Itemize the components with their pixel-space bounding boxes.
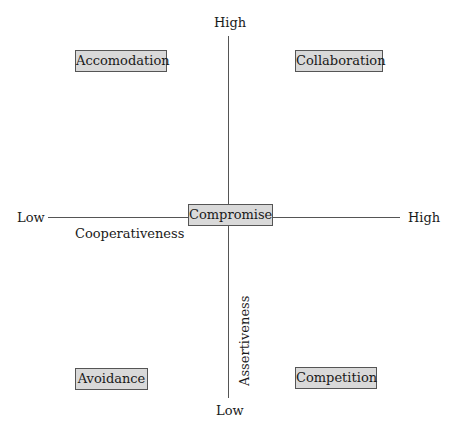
avoidance-box: Avoidance <box>75 368 148 390</box>
competition-box: Competition <box>295 367 377 389</box>
horizontal-axis-low-label: Low <box>17 210 45 225</box>
horizontal-axis-name: Cooperativeness <box>75 226 184 241</box>
vertical-axis-low-label: Low <box>216 403 244 418</box>
vertical-axis-high-label: High <box>214 15 246 30</box>
collaboration-box: Collaboration <box>295 50 383 72</box>
vertical-axis-name: Assertiveness <box>237 296 252 386</box>
horizontal-axis-high-label: High <box>408 210 440 225</box>
compromise-box: Compromise <box>188 204 273 226</box>
accomodation-box: Accomodation <box>75 50 167 72</box>
